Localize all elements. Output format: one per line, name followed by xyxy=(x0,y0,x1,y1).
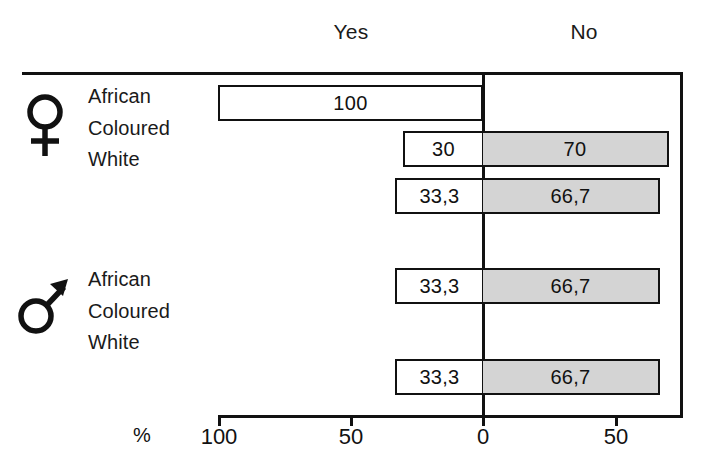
x-axis-line xyxy=(218,415,683,418)
row-label-female-african: African xyxy=(88,85,151,108)
bar-segment-yes: 33,3 xyxy=(395,178,483,214)
axis-tick-label-0: 0 xyxy=(477,424,489,450)
female-symbol xyxy=(16,92,74,162)
axis-unit-label: % xyxy=(133,424,151,447)
bar-segment-yes: 30 xyxy=(403,131,483,167)
plot-right-border xyxy=(680,72,683,417)
bar-row-female-african: 100 xyxy=(218,85,483,121)
bar-row-male-african: 33,3 66,7 xyxy=(395,268,660,304)
plot-top-border xyxy=(22,72,683,75)
row-label-male-white: White xyxy=(88,331,140,354)
bar-row-female-white: 33,3 66,7 xyxy=(395,178,660,214)
row-label-female-coloured: Coloured xyxy=(88,117,170,140)
bar-segment-no: 66,7 xyxy=(483,178,660,214)
column-header-yes: Yes xyxy=(334,20,369,44)
diverging-bar-chart: Yes No African Coloured White African Co… xyxy=(0,0,709,465)
bar-row-female-coloured: 30 70 xyxy=(403,131,669,167)
bar-row-male-white: 33,3 66,7 xyxy=(395,359,660,395)
bar-segment-yes: 33,3 xyxy=(395,268,483,304)
male-symbol xyxy=(14,268,72,338)
bar-segment-yes: 33,3 xyxy=(395,359,483,395)
column-header-no: No xyxy=(570,20,597,44)
axis-tick-label-50-no: 50 xyxy=(604,424,628,450)
bar-segment-no: 66,7 xyxy=(483,359,660,395)
row-label-male-coloured: Coloured xyxy=(88,300,170,323)
row-label-male-african: African xyxy=(88,268,151,291)
axis-tick-label-100-yes: 100 xyxy=(201,424,238,450)
axis-tick-label-50-yes: 50 xyxy=(339,424,363,450)
bar-segment-no: 70 xyxy=(483,131,669,167)
bar-segment-yes: 100 xyxy=(218,85,483,121)
row-label-female-white: White xyxy=(88,148,140,171)
bar-segment-no: 66,7 xyxy=(483,268,660,304)
